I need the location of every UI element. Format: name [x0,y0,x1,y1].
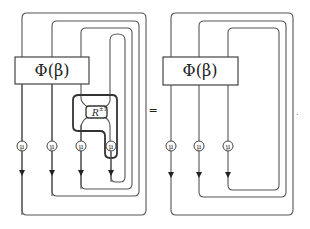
svg-text:μ: μ [109,143,114,151]
mu-node-right-2: μ [194,141,204,151]
arrow-down-icon [168,172,174,178]
mu-node-1: μ [17,141,27,151]
arrow-down-icon [108,170,114,176]
strand-1-loop-right [171,13,293,215]
phi-beta-label-right: Φ(β) [183,61,218,80]
svg-text:μ: μ [79,143,84,151]
trailing-period: . [296,108,299,117]
braid-identity-diagram: Φ(β) R ±1 μ μ μ μ = [0,0,310,229]
svg-text:μ: μ [20,143,25,151]
left-diagram: Φ(β) R ±1 μ μ μ μ [15,13,146,215]
mu-node-right-1: μ [166,141,176,151]
r-label: R [91,108,99,118]
strand-1-loop [22,13,146,215]
r-exponent: ±1 [99,106,107,112]
svg-text:μ: μ [197,143,202,151]
mu-node-4: μ [106,141,116,151]
arrow-down-icon [196,172,202,178]
mu-node-3: μ [76,141,86,151]
right-diagram: Φ(β) μ μ μ [163,13,293,215]
strand-3-loop-right [228,28,279,190]
r-output-left [81,117,88,141]
arrow-down-icon [225,172,231,178]
phi-beta-label-left: Φ(β) [35,61,70,80]
equals-sign: = [148,104,157,117]
arrow-down-icon [49,170,55,176]
svg-text:μ: μ [169,143,174,151]
svg-text:μ: μ [226,143,231,151]
arrow-down-icon [19,170,25,176]
strand-2-loop-right [199,21,286,197]
svg-text:μ: μ [50,143,55,151]
mu-node-right-3: μ [223,141,233,151]
arrow-down-icon [78,170,84,176]
mu-node-2: μ [47,141,57,151]
